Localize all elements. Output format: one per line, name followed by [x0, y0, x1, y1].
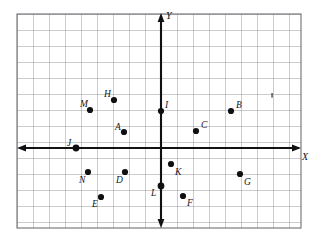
stray-tick-mark	[271, 93, 272, 98]
x-axis-label: X	[302, 152, 308, 162]
point-dot-e	[98, 194, 104, 200]
point-label-j: J	[67, 139, 71, 149]
point-label-a: A	[115, 123, 121, 133]
point-dot-n	[85, 169, 91, 175]
point-dot-g	[237, 171, 243, 177]
point-label-k: K	[175, 168, 181, 178]
point-dot-f	[180, 193, 186, 199]
point-dot-c	[193, 128, 199, 134]
point-label-b: B	[236, 101, 242, 111]
plot-canvas	[0, 0, 316, 246]
point-dot-l	[158, 183, 165, 190]
y-axis-label: Y	[166, 11, 172, 21]
point-dot-k	[168, 161, 174, 167]
point-label-h: H	[104, 90, 111, 100]
point-label-i: I	[165, 101, 168, 111]
point-label-g: G	[244, 178, 251, 188]
point-dot-j	[73, 145, 80, 152]
point-label-f: F	[187, 199, 193, 209]
point-label-c: C	[201, 121, 207, 131]
point-dot-i	[158, 108, 164, 114]
point-label-m: M	[80, 100, 88, 110]
point-dot-h	[111, 97, 117, 103]
point-dot-b	[228, 108, 234, 114]
grid-area	[17, 14, 301, 228]
point-label-n: N	[79, 176, 85, 186]
point-label-e: E	[92, 200, 98, 210]
coordinate-plane-figure: X Y A B C D E F G H I J K L M N	[0, 0, 316, 246]
point-dot-a	[121, 129, 127, 135]
point-label-l: L	[151, 189, 156, 199]
point-label-d: D	[116, 176, 123, 186]
